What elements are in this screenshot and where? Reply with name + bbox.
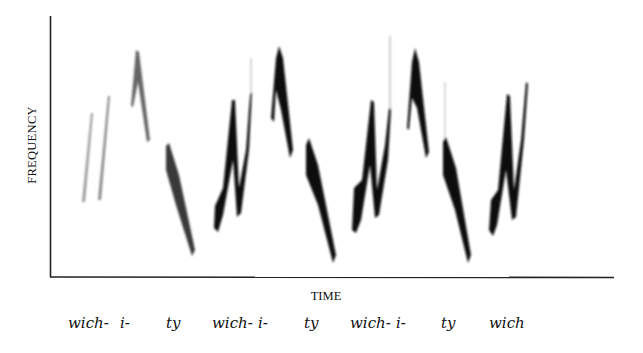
syllable-label: i- <box>120 314 130 332</box>
call-3-i-stroke <box>407 48 429 158</box>
call-2-ty-stroke <box>306 138 336 263</box>
x-axis-label: TIME <box>311 289 342 304</box>
call-1-i-stroke <box>131 50 150 142</box>
syllable-label: i- <box>258 314 268 332</box>
syllable-label: wich <box>489 314 525 332</box>
call-2-i-stroke <box>271 46 293 158</box>
syllable-label: ty <box>441 314 456 332</box>
call-2 <box>214 46 336 263</box>
syllable-label: wich- <box>350 314 391 332</box>
y-axis-label: FREQUENCY <box>25 106 40 184</box>
syllable-label: ty <box>304 314 319 332</box>
x-axis <box>50 277 614 278</box>
call-3-wich-stroke <box>352 100 391 233</box>
syllable-label: wich- <box>68 314 109 332</box>
syllable-label: wich- <box>212 314 253 332</box>
call-3 <box>352 36 471 263</box>
call-1-ty-stroke <box>166 143 195 256</box>
call-2-wich-stroke <box>214 92 252 232</box>
call-1-wich-stroke-2 <box>98 96 110 200</box>
call-4 <box>489 82 528 236</box>
call-3-ty-stroke <box>443 137 471 263</box>
syllable-label: ty <box>166 314 181 332</box>
call-4-wich-stroke <box>489 82 528 236</box>
syllable-label: i- <box>396 314 406 332</box>
call-1 <box>82 50 195 256</box>
call-1-wich-stroke-1 <box>82 113 93 202</box>
